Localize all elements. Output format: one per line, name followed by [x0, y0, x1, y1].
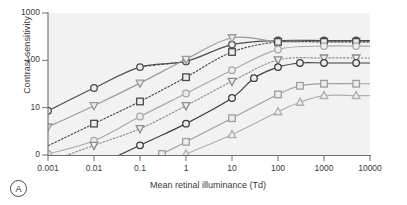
marker-square [159, 151, 166, 158]
y-tick-label: 0 [0, 149, 40, 159]
marker-circle [297, 60, 304, 67]
marker-square [275, 91, 282, 98]
marker-circle [251, 75, 258, 82]
x-tick-label: 10 [210, 163, 254, 173]
marker-circle [275, 46, 282, 53]
x-axis-title: Mean retinal illuminance (Td) [150, 180, 266, 190]
marker-square [229, 115, 236, 122]
marker-square [183, 139, 190, 146]
y-tick-label: 100 [0, 54, 40, 64]
marker-circle [229, 67, 236, 74]
marker-square [91, 120, 98, 127]
y-tick-label: 1000 [0, 7, 40, 17]
marker-square [321, 80, 328, 87]
marker-circle [137, 113, 144, 120]
marker-square [353, 80, 360, 87]
marker-circle [183, 120, 190, 127]
marker-circle [275, 64, 282, 71]
figure-panel: Contrast sensitivity Mean retinal illumi… [0, 0, 407, 205]
panel-label-badge: A [10, 180, 27, 197]
marker-square [275, 39, 282, 46]
x-tick-label: 10000 [348, 163, 392, 173]
marker-circle [183, 90, 190, 97]
marker-circle [137, 142, 144, 149]
marker-circle [353, 43, 360, 50]
y-tick-label: 10 [0, 102, 40, 112]
chart-canvas [0, 0, 407, 205]
x-tick-label: 0.001 [26, 163, 70, 173]
marker-square [183, 74, 190, 81]
x-tick-label: 1000 [302, 163, 346, 173]
marker-square [137, 98, 144, 105]
marker-circle [229, 95, 236, 102]
marker-circle [91, 85, 98, 92]
marker-square [229, 49, 236, 56]
x-tick-label: 0.1 [118, 163, 162, 173]
marker-square [297, 82, 304, 89]
marker-circle [321, 60, 328, 67]
marker-circle [353, 60, 360, 67]
x-tick-label: 1 [164, 163, 208, 173]
marker-circle [137, 64, 144, 71]
marker-circle [321, 43, 328, 50]
x-tick-label: 100 [256, 163, 300, 173]
x-tick-label: 0.01 [72, 163, 116, 173]
